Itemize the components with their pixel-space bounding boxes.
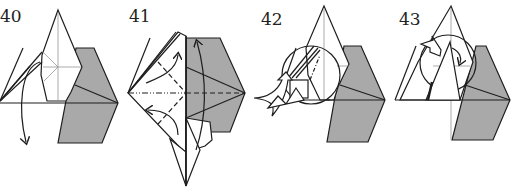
diagram-drawing (0, 0, 511, 188)
step-43-figure (395, 6, 510, 140)
step-41-figure (128, 32, 245, 186)
step-42-figure (254, 6, 385, 142)
step-40-figure (0, 10, 118, 143)
origami-diagram: 40 41 42 43 (0, 0, 511, 188)
